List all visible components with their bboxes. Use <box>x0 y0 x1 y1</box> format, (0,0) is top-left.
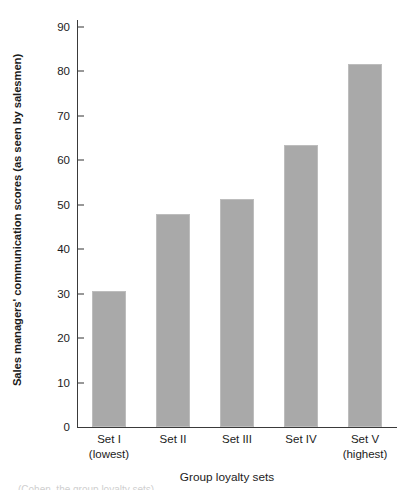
x-tick-label-sub: (highest) <box>333 447 397 462</box>
y-tick-label: 80 <box>42 65 70 77</box>
y-tick-label: 0 <box>42 421 70 433</box>
y-tick-label: 20 <box>42 332 70 344</box>
x-axis-line <box>77 427 397 428</box>
y-tick-label: 10 <box>42 377 70 389</box>
x-axis-tick-labels: Set I(lowest)Set IISet IIISet IVSet V(hi… <box>77 432 397 472</box>
x-tick-label: Set II <box>141 432 205 447</box>
y-axis-tick-labels: 0102030405060708090 <box>42 0 70 490</box>
x-tick-label-main: Set V <box>351 433 379 445</box>
x-tick-label-main: Set II <box>160 433 187 445</box>
x-tick-label-sub: (lowest) <box>77 447 141 462</box>
plot-area <box>77 27 397 427</box>
x-tick-label: Set III <box>205 432 269 447</box>
bar-chart-figure: Sales managers' communication scores (as… <box>0 0 408 490</box>
cropped-caption-text: (Cohen, the group loyalty sets) <box>18 484 268 490</box>
y-tick-label: 90 <box>42 21 70 33</box>
x-tick-label: Set IV <box>269 432 333 447</box>
bar <box>284 145 318 427</box>
bar <box>348 64 382 427</box>
y-tick-label: 50 <box>42 199 70 211</box>
x-axis-title: Group loyalty sets <box>77 470 377 484</box>
y-axis-title-container: Sales managers' communication scores (as… <box>0 0 34 440</box>
y-tick-label: 70 <box>42 110 70 122</box>
x-tick-label-main: Set III <box>222 433 252 445</box>
x-tick-label-main: Set I <box>97 433 121 445</box>
x-tick-label: Set I(lowest) <box>77 432 141 461</box>
bar <box>220 199 254 427</box>
y-tick-label: 40 <box>42 243 70 255</box>
x-tick-label: Set V(highest) <box>333 432 397 461</box>
y-tick-label: 30 <box>42 288 70 300</box>
bar <box>156 214 190 427</box>
y-tick-label: 60 <box>42 154 70 166</box>
x-tick-label-main: Set IV <box>285 433 316 445</box>
y-axis-title: Sales managers' communication scores (as… <box>11 54 23 386</box>
bar <box>92 291 126 427</box>
